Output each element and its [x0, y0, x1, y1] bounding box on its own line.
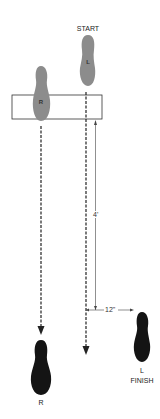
footwork-diagram: START L R 4' 12" R L FINISH [0, 0, 160, 419]
start-foot-letter: L [86, 59, 90, 65]
footprint-finish-left-icon [134, 312, 150, 362]
right-foot-arrowhead-icon [38, 326, 45, 335]
footprint-finish-right-icon [31, 340, 51, 395]
vertical-dimension-label: 4' [92, 211, 99, 218]
start-label: START [77, 25, 99, 32]
footprint-mid-right-icon [33, 66, 50, 121]
vertical-dimension-arrow-bottom-icon [94, 306, 97, 310]
finish-right-foot-letter: R [38, 399, 43, 406]
mid-foot-letter: R [39, 99, 43, 105]
finish-left-foot-letter: L [140, 367, 144, 374]
zone-box [12, 95, 102, 119]
horizontal-dimension-arrow-right-icon [130, 309, 134, 312]
finish-label: FINISH [131, 377, 154, 384]
horizontal-dimension-label: 12" [104, 306, 116, 313]
left-foot-arrowhead-icon [83, 346, 90, 355]
diagram-graphics [0, 0, 160, 419]
vertical-dimension-arrow-top-icon [94, 120, 97, 125]
